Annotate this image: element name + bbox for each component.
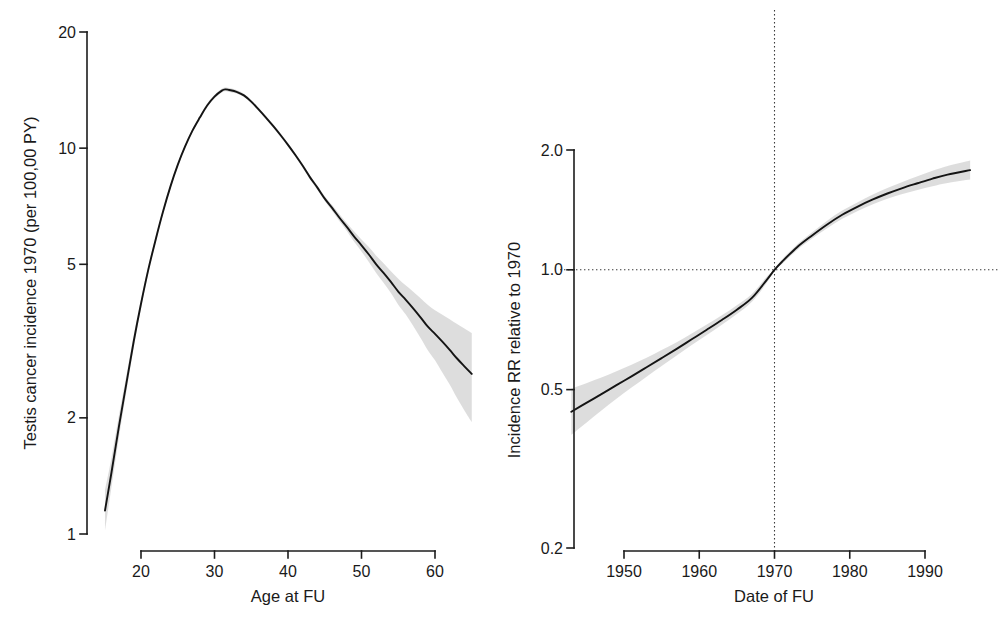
x-tick-label-60: 60 bbox=[426, 563, 444, 580]
confidence-band-right bbox=[571, 161, 970, 435]
x-tick-label-1970: 1970 bbox=[757, 563, 793, 580]
y-tick-label-1: 1 bbox=[67, 526, 76, 543]
fit-line-right bbox=[571, 170, 970, 412]
y-axis-title-right: Incidence RR relative to 1970 bbox=[505, 242, 523, 458]
x-tick-label-1950: 1950 bbox=[606, 563, 642, 580]
y-axis-title-left: Testis cancer incidence 1970 (per 100,00… bbox=[21, 117, 39, 450]
x-axis-left: 2030405060 bbox=[132, 551, 444, 580]
y-tick-label-20: 20 bbox=[58, 24, 76, 41]
x-tick-label-1980: 1980 bbox=[832, 563, 868, 580]
x-tick-label-1960: 1960 bbox=[681, 563, 717, 580]
x-tick-group-left: 2030405060 bbox=[132, 551, 444, 580]
x-tick-label-20: 20 bbox=[132, 563, 150, 580]
y-tick-group-right: 0.20.51.02.0 bbox=[541, 142, 574, 557]
y-tick-label-1.0: 1.0 bbox=[541, 261, 563, 278]
panel-left-svg: 1251020 2030405060 Testis cancer inciden… bbox=[0, 0, 500, 628]
x-tick-label-1990: 1990 bbox=[907, 563, 943, 580]
x-tick-label-30: 30 bbox=[206, 563, 224, 580]
chart-panel-right: 0.20.51.02.0 19501960197019801990 Incide… bbox=[498, 0, 998, 628]
y-axis-right: 0.20.51.02.0 bbox=[541, 142, 574, 557]
y-tick-label-0.2: 0.2 bbox=[541, 540, 563, 557]
x-tick-label-40: 40 bbox=[279, 563, 297, 580]
chart-panel-left: 1251020 2030405060 Testis cancer inciden… bbox=[0, 0, 500, 628]
y-tick-label-10: 10 bbox=[58, 140, 76, 157]
x-axis-right: 19501960197019801990 bbox=[606, 551, 943, 580]
y-tick-label-0.5: 0.5 bbox=[541, 381, 563, 398]
y-axis-left: 1251020 bbox=[58, 24, 87, 543]
y-tick-label-5: 5 bbox=[67, 256, 76, 273]
x-tick-group-right: 19501960197019801990 bbox=[606, 551, 943, 580]
x-axis-title-left: Age at FU bbox=[251, 587, 325, 605]
panel-right-svg: 0.20.51.02.0 19501960197019801990 Incide… bbox=[498, 0, 998, 628]
y-tick-label-2.0: 2.0 bbox=[541, 142, 563, 159]
y-tick-label-2: 2 bbox=[67, 409, 76, 426]
figure-container: 1251020 2030405060 Testis cancer inciden… bbox=[0, 0, 998, 628]
x-tick-label-50: 50 bbox=[353, 563, 371, 580]
confidence-band-left bbox=[105, 87, 472, 530]
y-tick-group-left: 1251020 bbox=[58, 24, 87, 543]
x-axis-title-right: Date of FU bbox=[734, 587, 814, 605]
